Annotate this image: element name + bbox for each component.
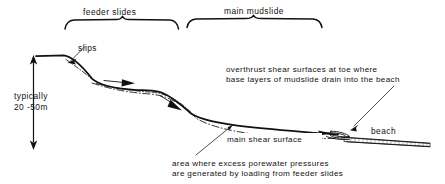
beach-deposit <box>344 137 430 147</box>
label-slips: slips <box>78 43 97 53</box>
brace-main-mudslide <box>187 15 322 27</box>
mudslide-cross-section-figure: feeder slides main mudslide typically 20… <box>0 0 445 184</box>
annotation-overthrust-line1: overthrust shear surfaces at toe where <box>226 65 378 74</box>
flow-arrow-upper <box>104 79 135 86</box>
cross-section-drawing: feeder slides main mudslide typically 20… <box>0 0 445 184</box>
main-shear-surface-line <box>92 83 343 139</box>
brace-feeder-slides <box>65 16 179 29</box>
annotation-porewater-line2: are generated by loading from feeder sli… <box>172 169 343 178</box>
leader-overthrust <box>350 86 394 132</box>
annotation-overthrust-line2: base layers of mudslide drain into the b… <box>226 75 400 84</box>
label-main-shear-surface: main shear surface <box>227 135 302 144</box>
label-beach: beach <box>371 126 396 136</box>
label-feeder-slides: feeder slides <box>83 7 136 17</box>
scale-label-line1: typically <box>14 91 48 101</box>
scale-label-line2: 20 -50m <box>14 102 48 112</box>
annotation-porewater-line1: area where excess porewater pressures <box>172 159 329 168</box>
label-main-mudslide: main mudslide <box>224 6 284 16</box>
